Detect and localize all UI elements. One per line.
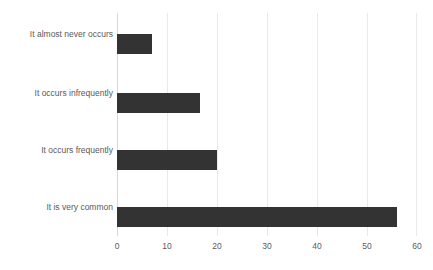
bar-row: [117, 207, 397, 227]
bars-layer: [117, 13, 417, 236]
category-axis: It almost never occurs It occurs infrequ…: [0, 13, 113, 236]
bar-it-is-very-common: [117, 207, 397, 227]
category-label: It almost never occurs: [1, 29, 113, 39]
x-tick-label: 50: [362, 240, 371, 252]
bar-chart: It almost never occurs It occurs infrequ…: [0, 0, 433, 270]
x-tick-label: 40: [312, 240, 321, 252]
x-axis: 0 10 20 30 40 50 60: [117, 240, 417, 256]
x-tick-label: 10: [162, 240, 171, 252]
x-tick-label: 30: [262, 240, 271, 252]
bar-it-occurs-infrequently: [117, 93, 200, 113]
x-tick-label: 60: [412, 240, 421, 252]
category-label: It occurs frequently: [1, 145, 113, 155]
bar-row: [117, 93, 200, 113]
x-tick-label: 20: [212, 240, 221, 252]
bar-row: [117, 34, 152, 54]
bar-it-occurs-frequently: [117, 150, 217, 170]
x-tick-label: 0: [115, 240, 120, 252]
bar-row: [117, 150, 217, 170]
category-label: It occurs infrequently: [1, 88, 113, 98]
bar-it-almost-never-occurs: [117, 34, 152, 54]
category-label: It is very common: [1, 202, 113, 212]
